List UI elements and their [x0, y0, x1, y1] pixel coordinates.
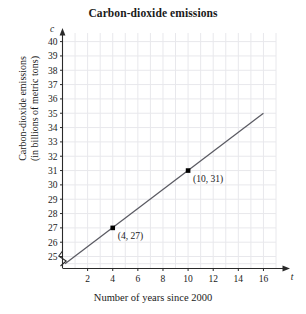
- svg-text:10: 10: [183, 274, 193, 284]
- plot-area: 25262728293031323334353637383940 2468101…: [0, 0, 306, 314]
- svg-text:31: 31: [48, 166, 58, 176]
- svg-text:39: 39: [48, 51, 58, 61]
- y-axis-arrowhead: [60, 28, 66, 36]
- svg-text:30: 30: [48, 180, 58, 190]
- svg-text:35: 35: [48, 109, 58, 119]
- trend-line: [65, 113, 263, 263]
- svg-text:27: 27: [48, 223, 58, 233]
- svg-text:40: 40: [48, 37, 58, 47]
- svg-text:(4, 27): (4, 27): [118, 231, 143, 242]
- svg-text:4: 4: [110, 274, 115, 284]
- svg-text:14: 14: [234, 274, 244, 284]
- svg-text:2: 2: [85, 274, 90, 284]
- svg-text:37: 37: [48, 80, 58, 90]
- svg-text:16: 16: [259, 274, 269, 284]
- svg-text:(10, 31): (10, 31): [193, 174, 223, 185]
- x-axis-variable-label: t: [291, 272, 294, 282]
- svg-text:25: 25: [48, 252, 58, 262]
- svg-text:36: 36: [48, 94, 58, 104]
- x-axis-tick-labels: 246810121416: [85, 274, 268, 284]
- y-axis-tick-labels: 25262728293031323334353637383940: [48, 37, 58, 262]
- svg-text:28: 28: [48, 209, 58, 219]
- svg-text:32: 32: [48, 152, 58, 162]
- svg-text:29: 29: [48, 195, 58, 205]
- x-axis-arrowhead: [283, 266, 291, 272]
- svg-text:12: 12: [208, 274, 218, 284]
- chart-container: Carbon-dioxide emissions Carbon-dioxide …: [0, 0, 306, 314]
- svg-text:38: 38: [48, 66, 58, 76]
- svg-text:33: 33: [48, 137, 58, 147]
- svg-text:26: 26: [48, 238, 58, 248]
- horizontal-gridlines: [63, 42, 277, 264]
- svg-text:34: 34: [48, 123, 58, 133]
- svg-text:8: 8: [161, 274, 166, 284]
- svg-text:6: 6: [135, 274, 140, 284]
- y-axis-variable-label: c: [50, 24, 55, 34]
